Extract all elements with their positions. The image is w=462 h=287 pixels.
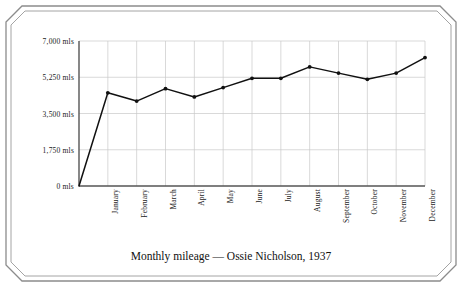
x-axis-tick-text: July [284, 189, 293, 202]
x-axis-tick-text: February [140, 189, 149, 218]
x-axis-tick-label: October [370, 189, 379, 215]
x-axis-tick-text: October [370, 189, 379, 215]
x-axis-tick-text: May [226, 189, 235, 203]
x-axis-tick-text: April [197, 189, 206, 206]
x-axis-tick-text: January [111, 189, 120, 214]
x-axis-tick-text: December [428, 189, 437, 221]
x-axis-tick-text: June [255, 189, 264, 204]
data-point [135, 99, 139, 103]
chart-figure: 7,000 mls5,250 mls3,500 mls1,750 mls0 ml… [0, 0, 462, 287]
x-axis-tick-label: July [284, 189, 293, 202]
data-point-markers [106, 56, 427, 103]
y-axis-tick-label: 5,250 mls [2, 73, 74, 82]
y-axis-tick-label: 0 mls [2, 182, 74, 191]
data-point [192, 95, 196, 99]
y-axis-labels: 7,000 mls5,250 mls3,500 mls1,750 mls0 ml… [0, 41, 74, 186]
x-axis-tick-text: March [169, 189, 178, 210]
data-point [106, 91, 110, 95]
y-axis-tick-label: 7,000 mls [2, 37, 74, 46]
plot-canvas [79, 41, 425, 186]
data-point [164, 87, 168, 91]
x-axis-tick-label: September [342, 189, 351, 223]
x-axis-tick-label: December [428, 189, 437, 221]
x-axis-tick-label: June [255, 189, 264, 204]
data-point [365, 77, 369, 81]
chart-caption: Monthly mileage — Ossie Nicholson, 1937 [0, 250, 462, 262]
x-axis-tick-label: February [140, 189, 149, 218]
x-axis-tick-label: March [169, 189, 178, 210]
x-axis-tick-text: November [399, 189, 408, 222]
x-axis-tick-text: September [342, 189, 351, 223]
x-axis-tick-text: August [313, 189, 322, 212]
data-point [308, 65, 312, 69]
data-point [423, 56, 427, 60]
x-axis-tick-label: January [111, 189, 120, 214]
x-axis-tick-label: April [197, 189, 206, 206]
x-axis-tick-label: August [313, 189, 322, 212]
data-point [394, 71, 398, 75]
plot-area [79, 41, 425, 186]
y-axis-tick-label: 3,500 mls [2, 109, 74, 118]
data-point [221, 86, 225, 90]
data-point [250, 76, 254, 80]
x-axis-tick-label: May [226, 189, 235, 203]
data-point [279, 76, 283, 80]
x-axis-labels: JanuaryFebruaryMarchAprilMayJuneJulyAugu… [79, 189, 425, 247]
data-point [337, 71, 341, 75]
y-axis-tick-label: 1,750 mls [2, 145, 74, 154]
x-axis-tick-label: November [399, 189, 408, 222]
